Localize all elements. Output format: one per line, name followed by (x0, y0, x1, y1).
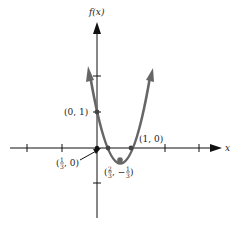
svg-text:(: ( (56, 158, 60, 168)
svg-text:(: ( (104, 167, 108, 177)
x-axis-arrow-icon (210, 144, 222, 152)
point-intercept (95, 110, 100, 115)
label-intercept: (0, 1) (64, 107, 88, 117)
y-axis-arrow-icon (93, 22, 101, 34)
curve-arrow-right-icon (146, 68, 154, 82)
label-root-1: ( 1 3 , 0) (56, 156, 79, 170)
curve-arrow-left-icon (86, 66, 94, 82)
x-axis: x (10, 143, 230, 153)
parabola-chart: x f(x) (0, 1) (1, 0) ( 1 3 , 0) ( 2 3 , … (0, 0, 235, 230)
label-vertex: ( 2 3 , − 1 3 ) (104, 165, 134, 179)
label-root-2: (1, 0) (139, 134, 163, 144)
x-axis-label: x (225, 143, 230, 153)
point-root-2 (129, 146, 134, 151)
svg-text:, −: , − (112, 167, 125, 177)
point-vertex (117, 157, 123, 163)
svg-text:, 0): , 0) (64, 158, 79, 168)
y-axis-label: f(x) (88, 7, 105, 17)
svg-text:): ) (130, 167, 134, 177)
point-root-1 (106, 146, 111, 151)
